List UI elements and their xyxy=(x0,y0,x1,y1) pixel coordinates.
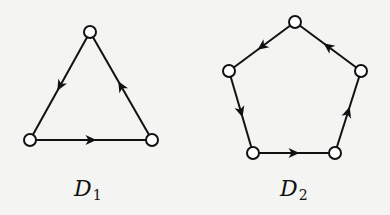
node-b xyxy=(223,65,235,77)
graph-d1 xyxy=(24,26,158,146)
node-d xyxy=(329,147,341,159)
graph-d1-label: D1 xyxy=(73,176,102,203)
digraph-figure: D1 D2 xyxy=(0,0,390,215)
node-b xyxy=(24,134,36,146)
node-c xyxy=(146,134,158,146)
arrowhead-a-b xyxy=(258,39,270,50)
arrowhead-e-a xyxy=(324,43,336,54)
node-a xyxy=(84,26,96,38)
node-a xyxy=(289,16,301,28)
node-c xyxy=(247,147,259,159)
node-e xyxy=(355,65,367,77)
graph-d2 xyxy=(223,16,367,159)
graph-d2-label: D2 xyxy=(279,176,308,203)
